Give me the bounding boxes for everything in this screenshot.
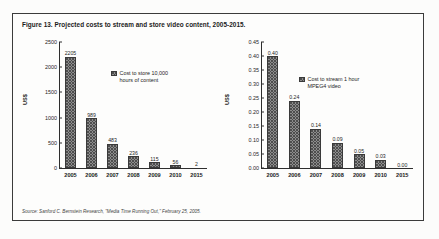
y-axis-tick-mark bbox=[261, 126, 264, 127]
y-axis-tick-label: 0.00 bbox=[249, 165, 260, 171]
bar-slot[interactable]: 0.09 bbox=[327, 42, 349, 168]
bar-slot[interactable]: 0.03 bbox=[370, 42, 392, 168]
source-note: Source: Sanford C. Bernstein Research, "… bbox=[22, 209, 201, 214]
bar[interactable] bbox=[289, 101, 300, 168]
bar-value-label: 0.24 bbox=[289, 94, 299, 100]
y-axis-tick-mark bbox=[261, 154, 264, 155]
y-axis-tick-label: 0.15 bbox=[249, 123, 260, 129]
y-axis-tick-label: 1500 bbox=[45, 89, 57, 95]
bar-slot[interactable]: 0.40 bbox=[262, 42, 284, 168]
bar-slot[interactable]: 483 bbox=[102, 42, 123, 168]
y-axis-tick-mark bbox=[261, 98, 264, 99]
y-axis-tick-label: 2500 bbox=[45, 39, 57, 45]
y-axis-tick-label: 0.30 bbox=[249, 81, 260, 87]
bar-value-label: 0.09 bbox=[332, 136, 342, 142]
figure-frame: Figure 13. Projected costs to stream and… bbox=[12, 13, 424, 221]
bar[interactable] bbox=[332, 143, 343, 168]
y-axis-tick-mark bbox=[59, 168, 62, 169]
bar-value-label: 0.05 bbox=[354, 148, 364, 154]
bar-value-label: 56 bbox=[173, 159, 179, 165]
y-axis-tick-mark bbox=[261, 84, 264, 85]
legend-swatch-icon bbox=[111, 71, 117, 77]
bar-value-label: 0.03 bbox=[376, 153, 386, 159]
legend-swatch-icon bbox=[299, 77, 305, 83]
x-axis-line-left bbox=[59, 168, 207, 169]
y-axis-tick-label: 0.10 bbox=[249, 137, 260, 143]
legend-left: Cost to store 10,000 hours of content bbox=[111, 70, 168, 83]
x-axis-tick-label: 2007 bbox=[305, 172, 327, 178]
x-axis-tick-label: 2006 bbox=[284, 172, 306, 178]
x-axis-labels-left: 2005200620072008200920102015 bbox=[60, 172, 207, 178]
x-axis-tick-label: 2008 bbox=[327, 172, 349, 178]
y-axis-tick-mark bbox=[261, 140, 264, 141]
bar-value-label: 236 bbox=[129, 150, 138, 156]
y-axis-tick-label: 0.40 bbox=[249, 53, 260, 59]
x-axis-line-right bbox=[261, 168, 413, 169]
bar[interactable] bbox=[107, 144, 118, 168]
x-axis-tick-label: 2006 bbox=[81, 172, 102, 178]
y-axis-tick-mark bbox=[59, 92, 62, 93]
y-axis-tick-label: 1000 bbox=[45, 115, 57, 121]
bar[interactable] bbox=[310, 129, 321, 168]
y-axis-label-left: US$ bbox=[22, 94, 28, 105]
bar-slot[interactable]: 0.00 bbox=[391, 42, 413, 168]
bar-group-left: 2205989483236115562 bbox=[60, 42, 207, 168]
y-axis-label-right: US$ bbox=[224, 94, 230, 105]
x-axis-tick-label: 2008 bbox=[123, 172, 144, 178]
bar-slot[interactable]: 0.05 bbox=[348, 42, 370, 168]
bar-value-label: 2205 bbox=[65, 50, 77, 56]
x-axis-tick-label: 2010 bbox=[165, 172, 186, 178]
y-axis-tick-mark bbox=[59, 142, 62, 143]
x-axis-tick-label: 2015 bbox=[186, 172, 207, 178]
bar[interactable] bbox=[65, 57, 76, 168]
y-axis-tick-mark bbox=[261, 112, 264, 113]
bar-slot[interactable]: 236 bbox=[123, 42, 144, 168]
y-axis-tick-label: 0.20 bbox=[249, 109, 260, 115]
legend-label-right: Cost to stream 1 hour MPEG4 video bbox=[308, 76, 360, 89]
bar-slot[interactable]: 2205 bbox=[60, 42, 81, 168]
x-axis-labels-right: 2005200620072008200920102015 bbox=[262, 172, 413, 178]
bar-slot[interactable]: 0.24 bbox=[284, 42, 306, 168]
bar-value-label: 2 bbox=[195, 161, 198, 167]
y-axis-tick-mark bbox=[59, 42, 62, 43]
legend-right: Cost to stream 1 hour MPEG4 video bbox=[299, 76, 359, 89]
bar-slot[interactable]: 989 bbox=[81, 42, 102, 168]
y-axis-tick-label: 2000 bbox=[45, 64, 57, 70]
chart-storage-cost: US$ 05001000150020002500 220598948323611… bbox=[19, 36, 215, 194]
bar[interactable] bbox=[375, 160, 386, 168]
bar[interactable] bbox=[267, 56, 278, 168]
y-axis-tick-mark bbox=[59, 117, 62, 118]
bar-slot[interactable]: 2 bbox=[186, 42, 207, 168]
y-axis-tick-label: 500 bbox=[48, 140, 57, 146]
y-axis-tick-mark bbox=[261, 42, 264, 43]
y-axis-tick-mark bbox=[261, 70, 264, 71]
y-axis-tick-label: 0.25 bbox=[249, 95, 260, 101]
y-axis-tick-label: 0.45 bbox=[249, 39, 260, 45]
y-axis-tick-mark bbox=[261, 168, 264, 169]
bar[interactable] bbox=[170, 165, 181, 168]
y-axis-tick-label: 0.35 bbox=[249, 67, 260, 73]
x-axis-tick-label: 2010 bbox=[370, 172, 392, 178]
y-axis-tick-mark bbox=[261, 56, 264, 57]
y-axis-tick-label: 0.05 bbox=[249, 151, 260, 157]
bar-slot[interactable]: 115 bbox=[144, 42, 165, 168]
bar[interactable] bbox=[149, 162, 160, 168]
bar[interactable] bbox=[354, 154, 365, 168]
x-axis-tick-label: 2015 bbox=[391, 172, 413, 178]
bar-group-right: 0.400.240.140.090.050.030.00 bbox=[262, 42, 413, 168]
x-axis-tick-label: 2007 bbox=[102, 172, 123, 178]
y-axis-tick-mark bbox=[59, 67, 62, 68]
bar-slot[interactable]: 0.14 bbox=[305, 42, 327, 168]
bar-value-label: 483 bbox=[108, 137, 117, 143]
bar-slot[interactable]: 56 bbox=[165, 42, 186, 168]
scanned-page: Figure 13. Projected costs to stream and… bbox=[0, 0, 439, 239]
bar-value-label: 0.14 bbox=[311, 122, 321, 128]
chart-streaming-cost: US$ 0.000.050.100.150.200.250.300.350.40… bbox=[221, 36, 419, 194]
bar-value-label: 989 bbox=[87, 112, 96, 118]
legend-label-left: Cost to store 10,000 hours of content bbox=[120, 70, 169, 83]
x-axis-tick-label: 2005 bbox=[262, 172, 284, 178]
bar[interactable] bbox=[128, 156, 139, 168]
x-axis-tick-label: 2009 bbox=[144, 172, 165, 178]
bar[interactable] bbox=[86, 118, 97, 168]
x-axis-tick-label: 2005 bbox=[60, 172, 81, 178]
